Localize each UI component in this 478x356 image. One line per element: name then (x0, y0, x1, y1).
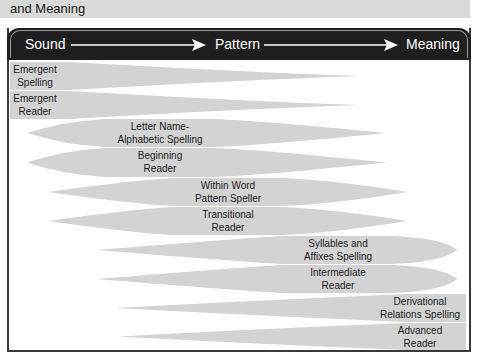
stage-label: BeginningReader (100, 149, 220, 175)
stage-label: TransitionalReader (168, 208, 288, 234)
stage-label-line2: Reader (360, 337, 478, 350)
stage-label-line1: Derivational (360, 295, 478, 308)
stage-label-line1: Intermediate (278, 266, 398, 279)
stage-label-line2: Alphabetic Spelling (100, 133, 220, 146)
stage-label: EmergentReader (0, 92, 95, 118)
stage-label-line1: Letter Name- (100, 120, 220, 133)
stage-label: IntermediateReader (278, 266, 398, 292)
stage-label: DerivationalRelations Spelling (360, 295, 478, 321)
stage-shape (97, 236, 457, 264)
stage-label-line1: Emergent (0, 63, 95, 76)
stage-label-line1: Within Word (168, 179, 288, 192)
stage-label: EmergentSpelling (0, 63, 95, 89)
stage-label-line1: Emergent (0, 92, 95, 105)
header-arrows (71, 39, 398, 51)
stage-label-line2: Reader (100, 162, 220, 175)
stage-label-line2: Spelling (0, 76, 95, 89)
stage-label-line1: Beginning (100, 149, 220, 162)
stage-label-line2: Reader (278, 279, 398, 292)
stage-label-line2: Relations Spelling (360, 308, 478, 321)
stage-label: Within WordPattern Speller (168, 179, 288, 205)
stage-label-line1: Syllables and (278, 237, 398, 250)
stage-label-line2: Reader (168, 221, 288, 234)
stage-label-line2: Pattern Speller (168, 192, 288, 205)
stage-label: AdvancedReader (360, 324, 478, 350)
stage-label-line2: Reader (0, 105, 95, 118)
stage-label-line1: Advanced (360, 324, 478, 337)
stage-shape (97, 265, 457, 293)
stage-label-line1: Transitional (168, 208, 288, 221)
stage-label: Syllables andAffixes Spelling (278, 237, 398, 263)
stage-label-line2: Affixes Spelling (278, 250, 398, 263)
stage-label: Letter Name-Alphabetic Spelling (100, 120, 220, 146)
